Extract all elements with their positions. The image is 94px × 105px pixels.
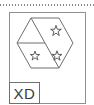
label-box: XD (9, 82, 40, 104)
drawing-canvas: XD (0, 0, 94, 105)
label-text: XD (14, 86, 36, 101)
divider-center-to-top-left (31, 18, 45, 43)
dotted-separator-line (0, 4, 94, 6)
divider-center-to-bottom (45, 43, 59, 68)
star-icon-lower-left (30, 51, 39, 60)
star-icon-upper-right (51, 25, 62, 35)
